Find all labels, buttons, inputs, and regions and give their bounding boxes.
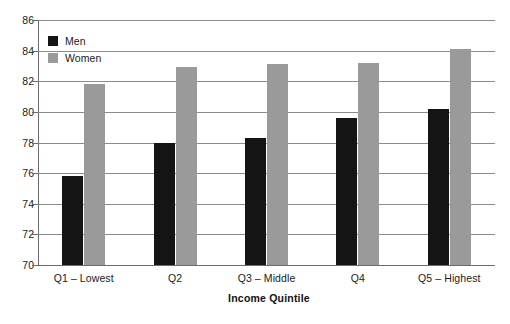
y-axis-tick-label: 82 [0, 75, 34, 87]
bar-women-1 [84, 84, 105, 265]
y-axis-tick-label: 74 [0, 198, 34, 210]
y-axis-tick-label: 84 [0, 45, 34, 57]
plot-area [38, 20, 495, 265]
bar-group [336, 20, 379, 265]
legend-label-men: Men [65, 35, 86, 47]
legend-item-women: Women [48, 50, 102, 65]
bar-women-3 [267, 64, 288, 265]
x-axis-tick-label: Q4 [351, 272, 365, 284]
x-axis-title-text: Income Quintile [228, 292, 310, 304]
x-axis-tick-label: Q5 – Highest [418, 272, 480, 284]
y-axis-tick-label: 76 [0, 167, 34, 179]
bar-group [154, 20, 197, 265]
bar-women-2 [176, 67, 197, 265]
legend-swatch-men-icon [48, 36, 58, 46]
bar-men-2 [154, 143, 175, 266]
bar-chart: 707274767880828486 Men Women Q1 – Lowest… [0, 0, 510, 324]
bar-men-1 [62, 176, 83, 265]
y-axis-tick-label: 86 [0, 14, 34, 26]
bar-women-4 [358, 63, 379, 265]
bar-women-5 [450, 49, 471, 265]
legend-swatch-women-icon [48, 53, 58, 63]
legend-item-men: Men [48, 33, 102, 48]
bar-group [428, 20, 471, 265]
y-axis-tick-label: 70 [0, 259, 34, 271]
x-axis-tick-label: Q2 [168, 272, 182, 284]
bar-men-4 [336, 118, 357, 265]
bar-group [245, 20, 288, 265]
y-axis-tick-label: 72 [0, 228, 34, 240]
x-axis-tick-label: Q3 – Middle [238, 272, 296, 284]
y-axis-tick-label: 80 [0, 106, 34, 118]
y-axis-tick-label: 78 [0, 137, 34, 149]
bar-men-5 [428, 109, 449, 265]
legend-label-women: Women [65, 52, 102, 64]
x-axis-tick-label: Q1 – Lowest [54, 272, 114, 284]
bar-men-3 [245, 138, 266, 265]
legend: Men Women [48, 33, 102, 67]
x-axis-title: Income Quintile [0, 292, 510, 304]
gridline [38, 265, 495, 266]
